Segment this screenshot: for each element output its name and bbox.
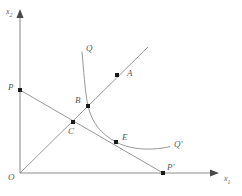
diagram-canvas xyxy=(0,0,242,196)
x-axis-arrowhead xyxy=(210,169,219,176)
curve-label-Q: Q xyxy=(86,44,93,53)
point-label-B: B xyxy=(75,96,81,105)
point-marker-P-prime xyxy=(161,171,165,175)
point-marker-A xyxy=(115,73,119,77)
point-marker-P xyxy=(18,88,22,92)
point-marker-C xyxy=(71,120,75,124)
y-axis-label-subscript: 2 xyxy=(10,12,13,18)
point-markers xyxy=(18,73,165,175)
axis-group xyxy=(16,9,219,177)
point-label-E: E xyxy=(122,133,128,142)
y-axis-arrowhead xyxy=(16,9,23,18)
x-axis-label-subscript: 1 xyxy=(228,179,231,185)
x-axis-label: x1 xyxy=(224,175,231,185)
point-label-C: C xyxy=(68,127,74,136)
isoquant-diagram: x2 x1 O P P' Q Q' A B C E xyxy=(0,0,242,196)
curve-label-Q-prime: Q' xyxy=(174,140,182,149)
point-label-P: P xyxy=(8,83,14,92)
point-label-A: A xyxy=(127,69,133,78)
point-label-P-prime: P' xyxy=(167,163,174,172)
point-marker-E xyxy=(114,140,118,144)
point-marker-B xyxy=(86,104,90,108)
expansion-ray-oa xyxy=(20,47,148,173)
y-axis-label: x2 xyxy=(6,8,13,18)
point-label-O: O xyxy=(8,173,15,182)
